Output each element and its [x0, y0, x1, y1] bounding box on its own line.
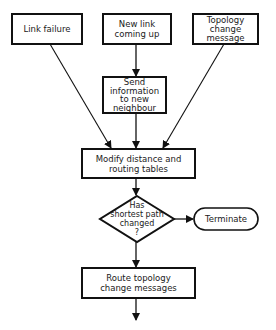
label-terminate: Terminate — [194, 208, 258, 230]
edge-linkfailure-modify — [50, 44, 111, 148]
label-new-link: New link coming up — [103, 14, 171, 44]
label-link-failure: Link failure — [12, 14, 82, 44]
edge-topology-modify — [163, 44, 224, 148]
label-send-information: Send information to new neighbour — [103, 77, 166, 113]
label-modify-tables: Modify distance and routing tables — [82, 149, 195, 178]
label-topology-change-message: Topology change message — [193, 14, 258, 44]
label-route-messages: Route topology change messages — [82, 268, 195, 298]
label-decision: Has shortest path changed ? — [96, 196, 178, 242]
